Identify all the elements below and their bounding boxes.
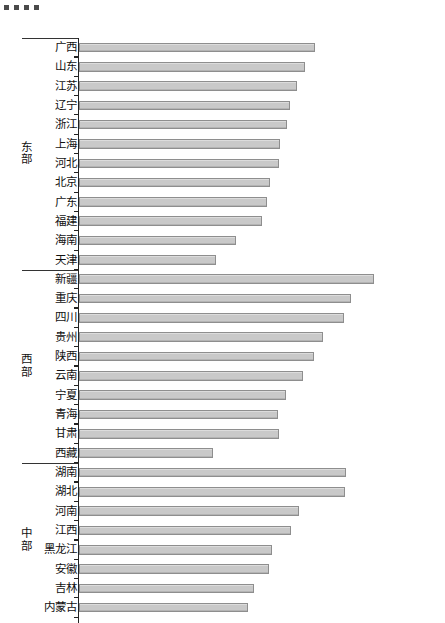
category-label: 浙江 (0, 117, 77, 131)
category-label: 辽宁 (0, 98, 77, 112)
category-label: 黑龙江 (0, 542, 77, 556)
bar-row: 宁夏 (0, 386, 445, 405)
bar-row: 山东 (0, 57, 445, 76)
group-separator (22, 38, 78, 39)
category-label: 河北 (0, 156, 77, 170)
bar-row: 广东 (0, 193, 445, 212)
group-label-char: 东 (18, 141, 34, 154)
bar (79, 120, 287, 130)
category-label: 河南 (0, 504, 77, 518)
category-label: 青海 (0, 407, 77, 421)
bar (79, 81, 297, 91)
bar (79, 371, 303, 381)
bar-row: 广西 (0, 38, 445, 57)
category-label: 新疆 (0, 272, 77, 286)
group-label-char: 部 (18, 540, 34, 553)
bar-row: 陕西 (0, 347, 445, 366)
category-label: 西藏 (0, 446, 77, 460)
bar-row: 江西 (0, 521, 445, 540)
bar-row: 重庆 (0, 289, 445, 308)
group-separator (22, 270, 78, 271)
category-label: 重庆 (0, 291, 77, 305)
category-label: 内蒙古 (0, 600, 77, 614)
category-label: 上海 (0, 137, 77, 151)
bar-row: 海南 (0, 231, 445, 250)
bar-row: 江苏 (0, 77, 445, 96)
category-label: 湖北 (0, 484, 77, 498)
bar (79, 545, 272, 555)
category-label: 云南 (0, 368, 77, 382)
bar-row: 辽宁 (0, 96, 445, 115)
group-label-2: 中部 (18, 527, 34, 552)
bar-row: 黑龙江 (0, 540, 445, 559)
group-label-char: 中 (18, 527, 34, 540)
regional-bar-chart: 广西山东江苏辽宁浙江上海河北北京广东福建海南天津新疆重庆四川贵州陕西云南宁夏青海… (0, 0, 445, 623)
bar (79, 448, 213, 458)
category-label: 江苏 (0, 79, 77, 93)
bar-row: 上海 (0, 135, 445, 154)
category-label: 湖南 (0, 465, 77, 479)
bar (79, 236, 236, 246)
category-label: 贵州 (0, 330, 77, 344)
bar (79, 101, 290, 111)
bar-row: 天津 (0, 251, 445, 270)
bar (79, 584, 254, 594)
bar-row: 吉林 (0, 579, 445, 598)
category-label: 宁夏 (0, 388, 77, 402)
category-label: 江西 (0, 523, 77, 537)
bar (79, 429, 279, 439)
axis-tick (74, 617, 79, 618)
group-label-char: 部 (18, 366, 34, 379)
category-label: 陕西 (0, 349, 77, 363)
bar-row: 河北 (0, 154, 445, 173)
bar (79, 603, 248, 613)
bar (79, 506, 299, 516)
bar-row: 四川 (0, 308, 445, 327)
bar (79, 313, 344, 323)
bar (79, 564, 269, 574)
bar (79, 352, 314, 362)
bar-row: 湖北 (0, 482, 445, 501)
bar-row: 浙江 (0, 115, 445, 134)
bar (79, 216, 262, 226)
bar (79, 43, 315, 53)
bar-row: 云南 (0, 366, 445, 385)
category-label: 天津 (0, 253, 77, 267)
bar (79, 255, 216, 265)
bar (79, 197, 267, 207)
bar (79, 159, 279, 169)
bar (79, 178, 270, 188)
bar-row: 福建 (0, 212, 445, 231)
group-separator (22, 463, 78, 464)
bar (79, 332, 323, 342)
bar (79, 526, 291, 536)
category-label: 安徽 (0, 562, 77, 576)
bar-row: 新疆 (0, 270, 445, 289)
bar-row: 湖南 (0, 463, 445, 482)
bar (79, 274, 374, 284)
bar (79, 468, 346, 478)
group-label-char: 部 (18, 153, 34, 166)
bar-row: 内蒙古 (0, 598, 445, 617)
bar-row: 甘肃 (0, 424, 445, 443)
group-label-1: 西部 (18, 353, 34, 378)
bar-row: 西藏 (0, 444, 445, 463)
bar-row: 安徽 (0, 560, 445, 579)
category-label: 甘肃 (0, 426, 77, 440)
bar-row: 青海 (0, 405, 445, 424)
category-label: 吉林 (0, 581, 77, 595)
category-label: 海南 (0, 233, 77, 247)
bar (79, 487, 345, 497)
bar (79, 410, 278, 420)
category-label: 四川 (0, 310, 77, 324)
category-label: 福建 (0, 214, 77, 228)
group-label-char: 西 (18, 353, 34, 366)
bar (79, 390, 286, 400)
category-label: 北京 (0, 175, 77, 189)
bar-row: 北京 (0, 173, 445, 192)
bar-row: 贵州 (0, 328, 445, 347)
bar (79, 139, 280, 149)
category-label: 广西 (0, 40, 77, 54)
category-label: 山东 (0, 59, 77, 73)
group-label-0: 东部 (18, 141, 34, 166)
